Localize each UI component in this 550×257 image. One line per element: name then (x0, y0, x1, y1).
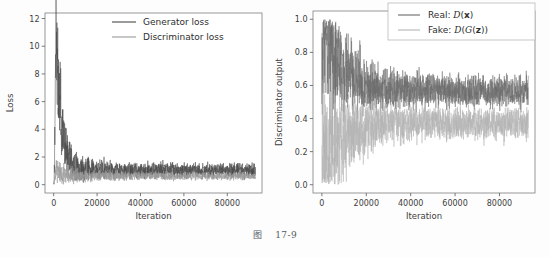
svg-text:Iteration: Iteration (135, 211, 171, 221)
gan-loss-plot: 020000400006000080000024681012IterationL… (0, 0, 275, 225)
chart-panel-gan-loss: 020000400006000080000024681012IterationL… (0, 0, 275, 225)
svg-text:20000: 20000 (354, 199, 379, 208)
svg-text:Loss: Loss (5, 93, 15, 112)
figure-container: 020000400006000080000024681012IterationL… (0, 0, 550, 257)
svg-text:0.0: 0.0 (295, 181, 308, 190)
svg-text:10: 10 (29, 42, 39, 51)
svg-text:12: 12 (29, 15, 39, 24)
svg-text:80000: 80000 (215, 199, 240, 208)
svg-text:0.4: 0.4 (295, 115, 308, 124)
svg-text:40000: 40000 (398, 199, 423, 208)
caption-label: 图 (253, 230, 263, 240)
svg-text:60000: 60000 (442, 199, 467, 208)
svg-text:60000: 60000 (171, 199, 196, 208)
figure-caption: 图17-9 (0, 228, 550, 241)
svg-text:0.8: 0.8 (295, 48, 308, 57)
svg-text:6: 6 (34, 98, 39, 107)
svg-text:Fake: D(G(z)): Fake: D(G(z)) (428, 25, 488, 35)
svg-text:0: 0 (51, 199, 56, 208)
svg-text:4: 4 (34, 125, 39, 134)
svg-text:40000: 40000 (128, 199, 153, 208)
svg-text:1.0: 1.0 (295, 15, 308, 24)
svg-text:0.6: 0.6 (295, 81, 308, 90)
svg-text:80000: 80000 (487, 199, 512, 208)
svg-text:Generator loss: Generator loss (143, 17, 209, 27)
svg-text:Iteration: Iteration (406, 211, 442, 221)
svg-text:0.2: 0.2 (295, 148, 308, 157)
discriminator-output-plot: 0200004000060000800000.00.20.40.60.81.0I… (272, 0, 547, 225)
svg-text:Discriminator loss: Discriminator loss (143, 32, 224, 42)
svg-text:Discriminator output: Discriminator output (274, 57, 284, 146)
svg-text:20000: 20000 (84, 199, 109, 208)
svg-text:0: 0 (34, 181, 39, 190)
caption-number: 17-9 (275, 230, 297, 240)
svg-text:8: 8 (34, 70, 39, 79)
svg-text:0: 0 (319, 199, 324, 208)
chart-panel-discriminator-output: 0200004000060000800000.00.20.40.60.81.0I… (272, 0, 547, 225)
svg-text:2: 2 (34, 153, 39, 162)
svg-text:Real: D(x): Real: D(x) (428, 10, 473, 20)
